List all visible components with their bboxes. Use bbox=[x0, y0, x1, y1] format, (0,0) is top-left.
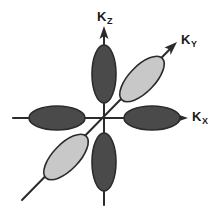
lobe-kz-down bbox=[92, 133, 116, 191]
kx-label-letter: K bbox=[192, 109, 201, 124]
lobe-ky-lower bbox=[37, 127, 96, 187]
kz-label-subscript: Z bbox=[107, 16, 113, 26]
ky-label-letter: K bbox=[181, 32, 190, 47]
kz-axis-label: KZ bbox=[97, 10, 112, 26]
lobe-ky-upper bbox=[113, 49, 172, 109]
kz-label-letter: K bbox=[97, 9, 106, 24]
ky-label-subscript: Y bbox=[191, 39, 197, 49]
ky-axis-label: KY bbox=[181, 33, 197, 49]
lobe-kx-left bbox=[29, 106, 85, 130]
kx-label-subscript: X bbox=[202, 116, 208, 126]
kx-axis-label: KX bbox=[192, 110, 208, 126]
lobe-kx-right bbox=[124, 106, 180, 130]
orbital-axes-figure: KZ KY KX bbox=[0, 0, 223, 220]
lobe-kz-up bbox=[92, 45, 116, 103]
